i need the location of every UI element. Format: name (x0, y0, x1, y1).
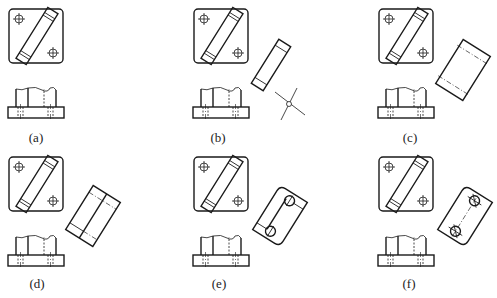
panel-label-c: (c) (403, 130, 417, 146)
panel-label-a: (a) (29, 130, 43, 146)
auxiliary-outline-divided (66, 185, 121, 246)
top-view (9, 7, 63, 64)
panel-label-e: (e) (212, 276, 226, 292)
panel-label-b: (b) (210, 130, 225, 146)
front-view (8, 235, 64, 269)
front-view (8, 87, 64, 121)
front-view (378, 235, 434, 269)
panel-a (8, 7, 64, 121)
top-view (379, 155, 433, 212)
reference-cross-marker (275, 88, 305, 120)
top-view (9, 155, 63, 212)
panel-b (193, 7, 305, 121)
top-view (194, 155, 248, 212)
front-view (378, 87, 434, 121)
figure-canvas (0, 0, 497, 298)
panel-label-d: (d) (29, 276, 44, 292)
panel-label-f: (f) (403, 276, 416, 292)
auxiliary-final (438, 185, 493, 246)
panel-e (193, 155, 307, 269)
auxiliary-bar-outline (251, 39, 290, 91)
top-view (194, 7, 248, 64)
auxiliary-with-holes (253, 185, 308, 246)
panel-c (378, 7, 492, 121)
panel-f (378, 155, 492, 269)
panel-d (8, 155, 120, 269)
front-view (193, 235, 249, 269)
top-view (379, 7, 433, 64)
auxiliary-outline (434, 38, 492, 101)
front-view (193, 87, 249, 121)
